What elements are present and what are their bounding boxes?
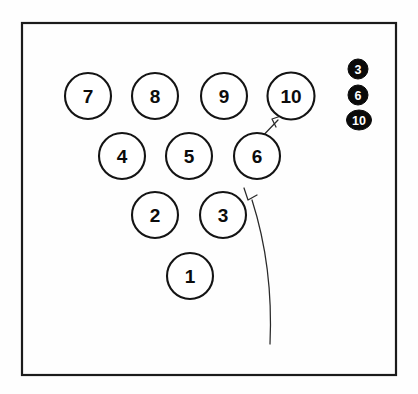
badge-6[interactable]: 6	[348, 85, 368, 105]
node-circle-6[interactable]: 6	[234, 133, 280, 179]
node-circle-1[interactable]: 1	[167, 253, 213, 299]
node-label-4: 4	[117, 146, 128, 167]
node-label-2: 2	[150, 205, 161, 226]
node-label-6: 6	[252, 146, 263, 167]
node-label-9: 9	[219, 86, 230, 107]
node-circle-2[interactable]: 2	[132, 192, 178, 238]
node-circle-9[interactable]: 9	[201, 73, 247, 119]
node-circle-5[interactable]: 5	[166, 133, 212, 179]
badge-10[interactable]: 10	[347, 110, 372, 130]
node-label-7: 7	[83, 86, 94, 107]
badge-layer: 3610	[347, 59, 372, 130]
badge-label-6: 6	[355, 89, 362, 103]
node-label-10: 10	[280, 86, 301, 107]
badge-label-3: 3	[355, 63, 362, 77]
node-circle-7[interactable]: 7	[65, 73, 111, 119]
node-label-5: 5	[184, 146, 195, 167]
node-label-8: 8	[150, 86, 161, 107]
node-layer: 78910456231	[65, 73, 315, 300]
node-circle-3[interactable]: 3	[200, 192, 246, 238]
long-curved-arrow-to-node-6	[244, 188, 270, 344]
figure-svg: 78910456231 3610	[0, 0, 418, 394]
node-label-3: 3	[218, 205, 229, 226]
node-circle-4[interactable]: 4	[99, 133, 145, 179]
long-curved-arrow-to-node-6-shaft	[252, 200, 270, 344]
badge-label-10: 10	[352, 114, 366, 128]
node-circle-10[interactable]: 10	[268, 73, 315, 120]
node-circle-8[interactable]: 8	[132, 73, 178, 119]
badge-3[interactable]: 3	[348, 59, 368, 79]
long-curved-arrow-to-node-6-head	[244, 188, 257, 200]
diagram-canvas: 78910456231 3610	[0, 0, 418, 394]
node-label-1: 1	[185, 266, 196, 287]
